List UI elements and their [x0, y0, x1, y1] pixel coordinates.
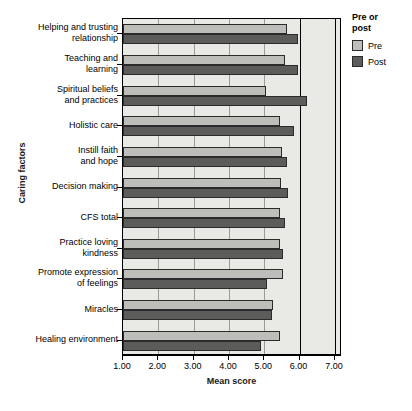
category-label-line: and practices — [8, 95, 118, 106]
category-label-line: learning — [8, 64, 118, 75]
category-label-line: Holistic care — [8, 120, 118, 131]
category-label-line: kindness — [8, 248, 118, 259]
bar-post-4 — [123, 157, 287, 167]
legend-item-post[interactable]: Post — [352, 56, 410, 67]
x-tick-5.00 — [263, 355, 264, 360]
legend-title-line1: Pre or — [352, 12, 410, 23]
x-tick-label-7.00: 7.00 — [314, 361, 354, 371]
bar-post-9 — [123, 310, 272, 320]
x-axis-title: Mean score — [122, 376, 341, 386]
x-tick-label-5.00: 5.00 — [243, 361, 283, 371]
category-label-line: Teaching and — [8, 53, 118, 64]
x-tick-label-4.00: 4.00 — [208, 361, 248, 371]
bar-post-3 — [123, 126, 294, 136]
category-axis-labels: Helping and trustingrelationshipTeaching… — [8, 18, 118, 355]
legend-swatch-post-icon — [352, 56, 363, 67]
gridline-6.00 — [300, 19, 301, 354]
category-label-3: Holistic care — [8, 120, 118, 131]
category-label-1: Teaching andlearning — [8, 53, 118, 75]
bar-pre-5 — [123, 178, 281, 188]
x-tick-1.00 — [122, 355, 123, 360]
legend-swatch-pre-icon — [352, 40, 363, 51]
x-tick-3.00 — [193, 355, 194, 360]
legend-label-post: Post — [368, 57, 386, 67]
category-label-4: Instill faithand hope — [8, 145, 118, 167]
category-label-line: Practice loving — [8, 237, 118, 248]
gridline-7.00 — [335, 19, 336, 354]
bar-pre-9 — [123, 300, 273, 310]
bar-post-1 — [123, 65, 298, 75]
category-label-line: Decision making — [8, 181, 118, 192]
category-label-0: Helping and trustingrelationship — [8, 22, 118, 44]
category-label-2: Spiritual beliefsand practices — [8, 84, 118, 106]
bar-pre-3 — [123, 116, 280, 126]
bar-post-7 — [123, 249, 283, 259]
category-label-7: Practice lovingkindness — [8, 237, 118, 259]
x-tick-2.00 — [157, 355, 158, 360]
bar-pre-4 — [123, 147, 282, 157]
category-label-line: relationship — [8, 33, 118, 44]
bar-post-6 — [123, 218, 285, 228]
category-label-8: Promote expressionof feelings — [8, 267, 118, 289]
bar-pre-1 — [123, 55, 285, 65]
legend-title-line2: post — [352, 23, 410, 34]
category-label-line: and hope — [8, 156, 118, 167]
bar-post-10 — [123, 341, 261, 351]
category-label-line: CFS total — [8, 212, 118, 223]
bar-pre-2 — [123, 86, 266, 96]
plot-area — [122, 18, 341, 355]
bar-pre-0 — [123, 24, 287, 34]
legend-title: Pre or post — [352, 12, 410, 34]
legend-label-pre: Pre — [368, 41, 382, 51]
category-label-line: Helping and trusting — [8, 22, 118, 33]
x-tick-4.00 — [228, 355, 229, 360]
x-tick-label-6.00: 6.00 — [279, 361, 319, 371]
bar-pre-10 — [123, 331, 280, 341]
category-label-line: of feelings — [8, 278, 118, 289]
bar-post-2 — [123, 96, 307, 106]
bar-pre-8 — [123, 269, 283, 279]
category-label-line: Promote expression — [8, 267, 118, 278]
category-label-line: Miracles — [8, 304, 118, 315]
bar-pre-7 — [123, 239, 280, 249]
x-tick-7.00 — [334, 355, 335, 360]
x-tick-label-2.00: 2.00 — [137, 361, 177, 371]
category-label-5: Decision making — [8, 181, 118, 192]
category-label-9: Miracles — [8, 304, 118, 315]
x-tick-6.00 — [299, 355, 300, 360]
category-label-line: Spiritual beliefs — [8, 84, 118, 95]
x-tick-label-3.00: 3.00 — [173, 361, 213, 371]
category-label-line: Healing environment — [8, 334, 118, 345]
bar-post-8 — [123, 279, 267, 289]
legend: Pre or post Pre Post — [352, 12, 410, 72]
bar-pre-6 — [123, 208, 280, 218]
bar-post-5 — [123, 188, 288, 198]
bar-post-0 — [123, 34, 298, 44]
bar-chart: Caring factors Helping and trustingrelat… — [0, 0, 412, 411]
category-label-6: CFS total — [8, 212, 118, 223]
category-label-line: Instill faith — [8, 145, 118, 156]
legend-item-pre[interactable]: Pre — [352, 40, 410, 51]
category-label-10: Healing environment — [8, 334, 118, 345]
x-tick-label-1.00: 1.00 — [102, 361, 142, 371]
x-axis-line — [122, 355, 341, 356]
